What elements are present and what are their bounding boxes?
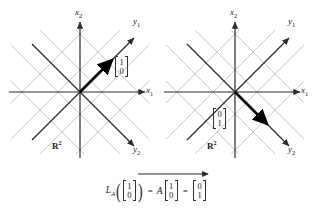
input-vector-label: 1 0 bbox=[115, 56, 128, 77]
transformation-equation: LA ( 1 0 ) = A 1 bbox=[0, 180, 313, 201]
codomain-panel: x2 y1 x1 y2 R2 0 1 bbox=[157, 0, 313, 170]
equation-row: LA ( 1 0 ) = A 1 bbox=[0, 168, 313, 212]
mapping-arrow bbox=[136, 168, 214, 180]
coordinate-axes bbox=[164, 22, 300, 158]
axis-label-y1: y1 bbox=[288, 17, 295, 28]
axis-label-x1: x1 bbox=[146, 86, 153, 97]
open-paren: ( bbox=[116, 183, 121, 199]
operator-term: LA ( 1 0 ) bbox=[106, 180, 144, 201]
axis-label-y2: y2 bbox=[133, 145, 140, 156]
close-paren: ) bbox=[138, 183, 143, 199]
y-axis-1-line bbox=[187, 38, 289, 140]
operator-symbol: LA bbox=[106, 185, 115, 197]
coordinate-axes bbox=[9, 22, 145, 158]
equation-input-vector: 1 0 bbox=[123, 180, 136, 201]
axis-label-y1: y1 bbox=[133, 17, 140, 28]
space-label-r2: R2 bbox=[52, 140, 62, 151]
axis-label-y2: y2 bbox=[288, 145, 295, 156]
linear-transformation-figure: x2 y1 x1 y2 R2 1 0 bbox=[0, 0, 313, 212]
matrix-product-term: A 1 0 bbox=[157, 180, 179, 201]
domain-panel: x2 y1 x1 y2 R2 1 0 bbox=[2, 0, 158, 170]
equation-matrix-vector: 1 0 bbox=[165, 180, 178, 201]
axis-label-x2: x2 bbox=[75, 8, 82, 19]
equals-sign-1: = bbox=[148, 186, 153, 196]
result-term: 0 1 bbox=[192, 180, 207, 201]
space-label-r2: R2 bbox=[207, 140, 217, 151]
axis-label-x2: x2 bbox=[230, 8, 237, 19]
output-vector-label: 0 1 bbox=[213, 108, 226, 129]
axis-label-x1: x1 bbox=[301, 86, 308, 97]
matrix-symbol: A bbox=[157, 186, 163, 196]
equals-sign-2: = bbox=[183, 186, 188, 196]
equation-result-vector: 0 1 bbox=[193, 180, 206, 201]
